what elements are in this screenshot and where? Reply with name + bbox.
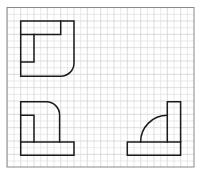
orthographic-diagram (0, 0, 197, 170)
grid-background (7, 8, 194, 168)
